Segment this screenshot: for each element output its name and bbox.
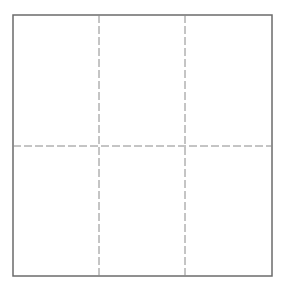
- grid-diagram: [0, 0, 287, 288]
- grid-dividers: [13, 15, 272, 276]
